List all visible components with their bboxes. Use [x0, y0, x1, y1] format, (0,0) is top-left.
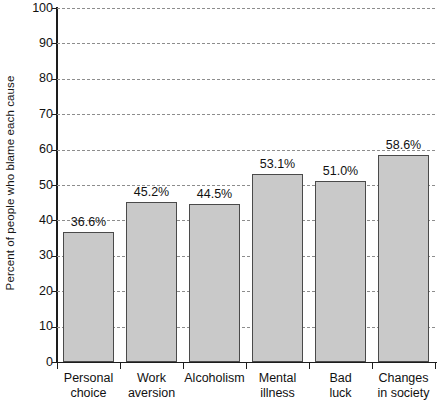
bar-value-label: 36.6% [57, 216, 119, 229]
y-axis-tick-label: 50 [19, 179, 53, 192]
y-axis-tick-mark [52, 220, 57, 221]
y-axis-tick-label: 90 [19, 37, 53, 50]
category-label-line1: Changes [378, 371, 428, 385]
y-axis-tick-label: 0 [19, 356, 53, 369]
y-axis-tick-label: 60 [19, 143, 53, 156]
y-axis-tick-label: 40 [19, 214, 53, 227]
y-axis-tick-label: 30 [19, 249, 53, 262]
x-axis-tick-mark [246, 362, 247, 369]
category-label-line1: Mental [259, 371, 297, 385]
category-label-line1: Work [137, 371, 166, 385]
bar[interactable] [189, 204, 239, 362]
x-axis-tick-mark [309, 362, 310, 369]
x-axis-tick-mark [57, 362, 58, 369]
plot-area: 36.6%45.2%44.5%53.1%51.0%58.6% [57, 8, 435, 362]
y-axis-tick-mark [52, 114, 57, 115]
y-axis-tick-mark [52, 43, 57, 44]
y-axis-tick-mark [52, 150, 57, 151]
y-axis-tick-mark [52, 256, 57, 257]
bar-value-label: 44.5% [183, 188, 245, 201]
x-axis-tick-mark [120, 362, 121, 369]
bar-value-label: 51.0% [309, 165, 371, 178]
y-axis-tick-mark [52, 291, 57, 292]
y-axis-tick-label: 100 [19, 2, 53, 15]
category-label-line1: Bad [329, 371, 351, 385]
gridline [57, 114, 435, 115]
y-axis-tick-mark [52, 79, 57, 80]
gridline [57, 79, 435, 80]
x-axis-tick-mark [372, 362, 373, 369]
gridline [57, 8, 435, 9]
bar[interactable] [378, 155, 428, 362]
bar-value-label: 58.6% [372, 139, 434, 152]
y-axis-tick-label: 20 [19, 285, 53, 298]
y-axis-tick-labels: 0102030405060708090100 [15, 0, 53, 406]
gridline [57, 43, 435, 44]
y-axis-tick-label: 10 [19, 320, 53, 333]
bar[interactable] [126, 202, 176, 362]
category-label-line2: aversion [114, 386, 189, 401]
x-axis-category-label: Changesin society [366, 371, 441, 400]
y-axis-tick-mark [52, 185, 57, 186]
x-axis-tick-mark [183, 362, 184, 369]
y-axis-tick-mark [52, 8, 57, 9]
bar-value-label: 45.2% [120, 186, 182, 199]
category-label-line1: Personal [64, 371, 113, 385]
x-axis-tick-mark [435, 362, 436, 369]
bar[interactable] [315, 181, 365, 362]
bar-value-label: 53.1% [246, 158, 308, 171]
y-axis-tick-mark [52, 327, 57, 328]
category-label-line2: in society [366, 386, 441, 401]
y-axis-tick-label: 70 [19, 108, 53, 121]
category-label-line1: Alcoholism [184, 371, 244, 385]
bar-chart: Percent of people who blame each cause 0… [0, 0, 441, 406]
y-axis-tick-label: 80 [19, 72, 53, 85]
bar[interactable] [252, 174, 302, 362]
bar[interactable] [63, 232, 113, 362]
